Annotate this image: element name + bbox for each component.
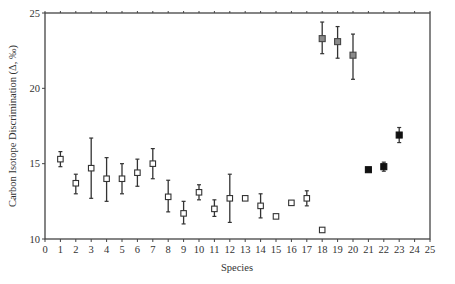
chart: 0123456789101112131415161718192021222324… [0,0,455,284]
x-tick-label: 7 [150,244,155,255]
y-tick-label: 10 [30,234,41,245]
data-point [135,170,141,176]
x-tick-label: 0 [42,244,47,255]
x-tick-label: 23 [394,244,405,255]
data-point [150,161,156,167]
y-tick-label: 15 [30,158,41,169]
x-tick-label: 15 [271,244,282,255]
plot-frame [45,13,430,239]
data-point [88,165,94,171]
data-point [258,203,264,209]
x-tick-label: 25 [425,244,436,255]
x-tick-label: 2 [73,244,78,255]
y-axis-title: Carbon Isotope Discrimination (Δ, ‰) [7,44,19,207]
data-point [289,200,295,206]
data-point [304,196,310,202]
x-tick-label: 3 [89,244,94,255]
data-point [396,132,402,138]
x-tick-label: 14 [255,244,266,255]
x-tick-label: 4 [104,244,110,255]
y-axis-ticks: 10152025 [30,8,46,245]
data-point [227,196,233,202]
x-tick-label: 24 [409,244,420,255]
data-point [319,227,325,233]
data-point [181,211,187,217]
x-tick-label: 19 [332,244,343,255]
data-point [381,164,387,170]
data-point [196,190,202,196]
x-tick-label: 17 [302,244,313,255]
x-tick-label: 9 [181,244,186,255]
x-tick-label: 1 [58,244,63,255]
data-point [73,181,79,187]
data-point [119,176,125,182]
data-point [165,194,171,200]
data-point [273,214,279,220]
x-tick-label: 11 [209,244,219,255]
data-point [58,156,64,162]
data-point [365,167,371,173]
y-tick-label: 25 [30,8,41,19]
x-tick-label: 6 [135,244,140,255]
x-tick-label: 18 [317,244,328,255]
x-tick-label: 21 [363,244,374,255]
data-point [335,39,341,45]
x-tick-label: 13 [240,244,251,255]
x-tick-label: 10 [194,244,205,255]
x-axis-title: Species [221,262,253,273]
y-tick-label: 20 [30,83,41,94]
data-point [242,196,248,202]
x-tick-label: 5 [119,244,124,255]
x-tick-label: 16 [286,244,297,255]
x-tick-label: 12 [225,244,236,255]
data-point [212,206,218,212]
data-point [350,52,356,58]
x-tick-label: 22 [379,244,390,255]
data-point [319,36,325,42]
x-tick-label: 8 [166,244,171,255]
x-tick-label: 20 [348,244,359,255]
data-point [104,176,110,182]
